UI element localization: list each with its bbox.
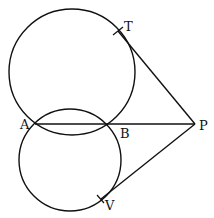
label-A: A <box>19 117 30 132</box>
geometry-diagram: A B P T V <box>0 0 214 218</box>
label-P: P <box>199 118 208 133</box>
label-B: B <box>120 126 130 141</box>
tangent-PT <box>118 31 195 124</box>
diagram-canvas: A B P T V <box>0 0 214 218</box>
label-T: T <box>124 19 133 34</box>
label-V: V <box>104 198 115 213</box>
